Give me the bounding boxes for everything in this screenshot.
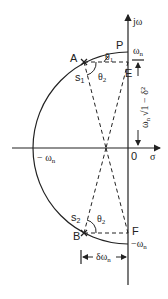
point-B-label: B xyxy=(73,230,80,242)
svg-text:A: A xyxy=(70,52,78,64)
svg-text:δωn: δωn xyxy=(96,251,111,264)
svg-text:s2: s2 xyxy=(71,211,81,224)
svg-text:ωn√1 − δ²: ωn√1 − δ² xyxy=(139,87,152,128)
svg-text:jω: jω xyxy=(132,16,143,27)
svg-text:θ2: θ2 xyxy=(98,71,107,84)
line-cross-F xyxy=(106,148,128,233)
svg-text:θ2: θ2 xyxy=(97,213,106,226)
point-A-label: A xyxy=(70,52,78,64)
theta2-upper-arc xyxy=(87,62,96,75)
svg-text:− ωn: − ωn xyxy=(37,152,56,165)
theta2-lower-arc xyxy=(87,220,96,233)
s-plane-diagram: jω σ 0 P A E B F s1 s2 θ1 θ2 θ2 ωn − ωn … xyxy=(0,0,168,299)
svg-text:ωn: ωn xyxy=(133,45,144,58)
minus-omega-n-bottom-label: −ω xyxy=(131,238,144,249)
origin-label: 0 xyxy=(131,150,137,162)
real-axis-label: σ xyxy=(150,151,156,162)
svg-text:E: E xyxy=(125,67,132,79)
svg-text:F: F xyxy=(132,225,139,237)
delta-omega-n-label: δω xyxy=(96,251,108,262)
svg-text:0: 0 xyxy=(131,150,137,162)
svg-text:P: P xyxy=(116,39,123,51)
imag-axis-label: jω xyxy=(132,16,143,27)
svg-text:B: B xyxy=(73,230,80,242)
point-F-label: F xyxy=(132,225,139,237)
svg-text:σ: σ xyxy=(150,151,156,162)
point-E-label: E xyxy=(125,67,132,79)
svg-text:s1: s1 xyxy=(75,71,85,84)
svg-text:−ωn: −ωn xyxy=(131,238,147,251)
point-P-label: P xyxy=(116,39,123,51)
minus-omega-n-left-label: − ω xyxy=(37,152,52,163)
